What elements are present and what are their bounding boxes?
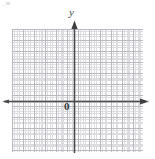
x-axis-label: x: [146, 98, 149, 105]
graph-figure: y x 0: [0, 0, 155, 159]
y-axis-label: y: [69, 7, 74, 18]
x-axis: [3, 98, 150, 104]
y-axis: [71, 21, 77, 154]
x-axis-left-arrowhead: [3, 100, 10, 104]
y-axis-arrowhead: [71, 21, 77, 30]
origin-label: 0: [64, 101, 70, 112]
axes-group: [0, 0, 155, 159]
